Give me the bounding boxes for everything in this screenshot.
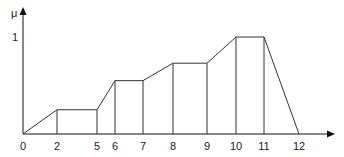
y-tick-labels: 1 <box>12 31 18 43</box>
membership-series-line <box>23 37 299 134</box>
x-tick-label-0: 0 <box>20 140 26 152</box>
x-tick-label-10: 10 <box>230 140 242 152</box>
membership-chart: 0256789101112 1 μ <box>0 0 344 157</box>
x-tick-label-12: 12 <box>293 140 305 152</box>
x-tick-label-2: 2 <box>54 140 60 152</box>
vertical-lines <box>57 37 264 134</box>
y-tick-label-1: 1 <box>12 31 18 43</box>
x-tick-label-6: 6 <box>112 140 118 152</box>
x-tick-labels: 0256789101112 <box>20 140 305 152</box>
axes <box>20 7 336 138</box>
x-tick-label-11: 11 <box>258 140 269 152</box>
y-axis-arrow-icon <box>20 7 27 15</box>
x-tick-label-8: 8 <box>170 140 176 152</box>
x-axis-arrow-icon <box>327 131 335 138</box>
x-tick-label-5: 5 <box>94 140 100 152</box>
y-axis-label: μ <box>11 7 17 19</box>
x-tick-label-7: 7 <box>140 140 146 152</box>
x-tick-label-9: 9 <box>204 140 210 152</box>
